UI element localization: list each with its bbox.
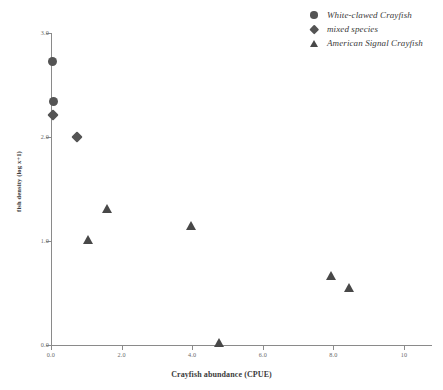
x-tick-label: 6.0 bbox=[248, 352, 278, 358]
data-point-triangle bbox=[186, 221, 196, 230]
y-axis-line bbox=[51, 33, 52, 345]
legend-triangle-icon bbox=[306, 40, 322, 47]
legend: White-clawed Crayfishmixed speciesAmeric… bbox=[306, 8, 423, 50]
x-axis-title: Crayfish abundance (CPUE) bbox=[0, 370, 443, 379]
y-tick-label: 0.0 bbox=[19, 342, 49, 348]
x-tick-mark bbox=[51, 345, 52, 350]
data-point-triangle bbox=[83, 235, 93, 244]
legend-diamond-icon bbox=[306, 26, 322, 33]
x-tick-label: 2.0 bbox=[107, 352, 137, 358]
legend-item-label: American Signal Crayfish bbox=[322, 38, 423, 48]
x-tick-label: 4.0 bbox=[177, 352, 207, 358]
legend-item-label: mixed species bbox=[322, 24, 378, 34]
legend-item[interactable]: White-clawed Crayfish bbox=[306, 8, 423, 22]
data-point-diamond bbox=[47, 109, 58, 120]
legend-item[interactable]: American Signal Crayfish bbox=[306, 36, 423, 50]
y-tick-label: 3.0 bbox=[19, 30, 49, 36]
x-tick-label: 8.0 bbox=[318, 352, 348, 358]
x-tick-label: 10 bbox=[389, 352, 419, 358]
x-tick-mark bbox=[404, 345, 405, 350]
y-tick-label: 1.0 bbox=[19, 238, 49, 244]
x-axis-line bbox=[51, 345, 432, 346]
x-tick-mark bbox=[192, 345, 193, 350]
x-tick-mark bbox=[333, 345, 334, 350]
x-tick-mark bbox=[122, 345, 123, 350]
data-point-triangle bbox=[326, 271, 336, 280]
data-point-circle bbox=[49, 97, 58, 106]
plot-area: 3.02.01.00.0 0.02.04.06.08.010 Crayfish … bbox=[0, 0, 443, 390]
y-tick-label: 2.0 bbox=[19, 134, 49, 140]
data-point-triangle bbox=[344, 283, 354, 292]
data-point-diamond bbox=[71, 131, 82, 142]
x-tick-mark bbox=[263, 345, 264, 350]
scatter-plot-figure: 3.02.01.00.0 0.02.04.06.08.010 Crayfish … bbox=[0, 0, 443, 390]
data-point-circle bbox=[48, 57, 57, 66]
data-point-triangle bbox=[214, 338, 224, 347]
legend-circle-icon bbox=[306, 11, 322, 19]
y-axis-title: fish density (log x+1) bbox=[15, 122, 22, 242]
legend-item-label: White-clawed Crayfish bbox=[322, 10, 412, 20]
x-tick-label: 0.0 bbox=[36, 352, 66, 358]
legend-item[interactable]: mixed species bbox=[306, 22, 423, 36]
data-point-triangle bbox=[102, 204, 112, 213]
